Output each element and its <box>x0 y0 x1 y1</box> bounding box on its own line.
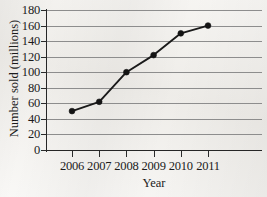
series-line <box>72 26 208 112</box>
data-point-marker <box>205 23 211 29</box>
y-axis-tick <box>41 150 47 151</box>
y-axis-tick <box>41 57 47 58</box>
y-axis-tick <box>41 26 47 27</box>
y-axis-tick <box>41 72 47 73</box>
series-layer <box>0 0 267 197</box>
y-axis-tick <box>41 103 47 104</box>
chart-figure: 020406080100120140160180 200620072008200… <box>0 0 267 197</box>
data-point-marker <box>124 69 130 75</box>
data-point-marker <box>96 99 102 105</box>
data-point-marker <box>69 108 75 114</box>
y-axis-tick <box>41 88 47 89</box>
y-axis-tick <box>41 134 47 135</box>
y-axis-tick <box>41 41 47 42</box>
data-point-marker <box>151 52 157 58</box>
series-markers <box>69 23 211 114</box>
y-axis-tick <box>41 119 47 120</box>
data-point-marker <box>178 30 184 36</box>
y-axis-tick <box>41 10 47 11</box>
